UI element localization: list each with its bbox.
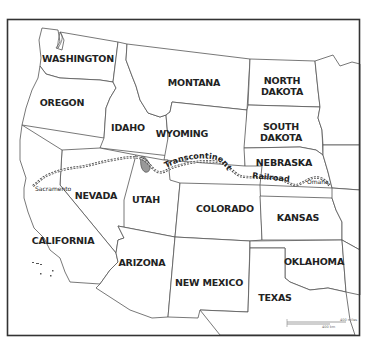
label-montana: MONTANA xyxy=(168,77,221,88)
label-nebraska: NEBRASKA xyxy=(256,157,313,168)
label-south-dakota-line2: DAKOTA xyxy=(260,132,303,143)
label-kansas: KANSAS xyxy=(277,212,320,223)
label-arizona: ARIZONA xyxy=(118,257,166,268)
label-north-dakota-line2: DAKOTA xyxy=(261,86,304,97)
label-texas: TEXAS xyxy=(258,292,292,303)
label-utah: UTAH xyxy=(132,194,160,205)
state-minnesota-partial xyxy=(315,55,360,145)
label-south-dakota-line1: SOUTH xyxy=(263,121,299,132)
western-us-map: Transcontinental Railroad WASHINGTON ORE… xyxy=(0,0,372,353)
label-new-mexico: NEW MEXICO xyxy=(175,277,243,288)
city-label-sacramento: Sacramento xyxy=(35,185,72,192)
label-california: CALIFORNIA xyxy=(32,235,95,246)
scale-miles-label: 400 miles xyxy=(340,318,357,322)
label-washington: WASHINGTON xyxy=(42,53,114,64)
label-oklahoma: OKLAHOMA xyxy=(284,256,345,267)
scale-km-label: 400 km xyxy=(322,325,336,329)
label-north-dakota-line1: NORTH xyxy=(264,75,301,86)
label-nevada: NEVADA xyxy=(75,190,118,201)
label-wyoming: WYOMING xyxy=(156,128,209,139)
label-colorado: COLORADO xyxy=(196,203,254,214)
city-label-omaha: Omaha xyxy=(307,178,329,185)
label-oregon: OREGON xyxy=(40,97,85,108)
label-idaho: IDAHO xyxy=(111,122,145,133)
